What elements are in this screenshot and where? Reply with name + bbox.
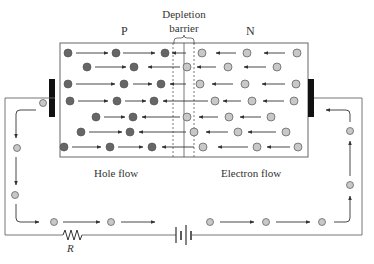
electron-dot: [290, 97, 298, 105]
electron-dot: [273, 63, 281, 71]
electron-dot: [225, 113, 233, 121]
resistor-label: R: [67, 242, 74, 254]
p-region-label: P: [121, 24, 128, 39]
electron-dot: [282, 128, 290, 136]
n-region-label: N: [246, 24, 255, 39]
hole-dot: [92, 113, 100, 121]
electron-dot: [241, 80, 249, 88]
circuit-electron-dot: [14, 145, 21, 152]
electron-dot: [183, 113, 191, 121]
electron-dot: [292, 80, 300, 88]
hole-dot: [150, 97, 158, 105]
hole-dot: [112, 49, 120, 57]
electron-dot: [293, 49, 301, 57]
electron-dot: [198, 49, 206, 57]
hole-dot: [64, 49, 72, 57]
resistor-icon: [63, 230, 82, 240]
electron-dot: [253, 143, 261, 151]
electron-flow-label: Electron flow: [221, 167, 281, 179]
circuit-electron-dot: [207, 219, 214, 226]
hole-dot: [120, 80, 128, 88]
hole-dot: [148, 143, 156, 151]
hole-dot: [161, 49, 169, 57]
hole-dot: [106, 143, 114, 151]
electron-dot: [196, 80, 204, 88]
circuit-electron-dot: [347, 128, 354, 135]
circuit-electron-dot: [319, 219, 326, 226]
hole-dot: [60, 143, 68, 151]
electron-dot: [267, 113, 275, 121]
electron-dot: [294, 143, 302, 151]
depletion-label-line1: Depletion: [161, 8, 207, 20]
circuit-electron-dot: [51, 219, 58, 226]
pn-junction-diagram: P N Depletion barrier Hole flow Electron…: [0, 0, 374, 264]
circuit-wire: [5, 98, 63, 235]
electron-dot: [243, 49, 251, 57]
hole-dot: [64, 80, 72, 88]
hole-dot: [66, 97, 74, 105]
electron-dot: [199, 143, 207, 151]
battery-icon: [176, 225, 191, 245]
electron-dot: [224, 63, 232, 71]
hole-dot: [157, 80, 165, 88]
hole-dot: [130, 63, 138, 71]
hole-dot: [129, 113, 137, 121]
circuit-electron-dot: [347, 182, 354, 189]
circuit-electron-dot: [263, 219, 270, 226]
depletion-label-line2: barrier: [161, 22, 207, 34]
diagram-canvas: [0, 0, 374, 264]
hole-dot: [126, 128, 134, 136]
electron-dot: [183, 63, 191, 71]
circuit-electron-dot: [12, 192, 19, 199]
hole-dot: [113, 97, 121, 105]
electron-dot: [234, 128, 242, 136]
circuit-electron-dot: [40, 100, 47, 107]
electron-dot: [211, 97, 219, 105]
cathode-terminal: [308, 79, 314, 117]
hole-dot: [77, 128, 85, 136]
hole-dot: [83, 63, 91, 71]
hole-flow-label: Hole flow: [94, 167, 138, 179]
circuit-electron-dot: [108, 219, 115, 226]
electron-dot: [248, 97, 256, 105]
electron-dot: [190, 128, 198, 136]
